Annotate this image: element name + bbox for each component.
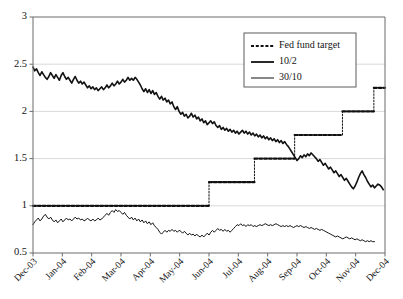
line-chart: 0.511.522.53 Dec-03Jan-04Feb-04Mar-04Apr…	[0, 0, 403, 299]
chart-container: 0.511.522.53 Dec-03Jan-04Feb-04Mar-04Apr…	[0, 0, 403, 299]
y-tick-label: 0.5	[14, 246, 27, 257]
chart-legend: Fed fund target10/230/10	[244, 33, 356, 87]
y-tick-label: 1	[22, 199, 27, 210]
legend-label: Fed fund target	[279, 39, 340, 50]
y-tick-label: 2	[22, 105, 27, 116]
y-tick-label: 3	[22, 10, 27, 21]
legend-label: 10/2	[279, 55, 297, 66]
y-tick-label: 2.5	[14, 58, 27, 69]
y-tick-label: 1.5	[14, 152, 27, 163]
legend-label: 30/10	[279, 71, 302, 82]
